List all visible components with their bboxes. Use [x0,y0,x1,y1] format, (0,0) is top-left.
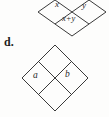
example-diamond-left-cell-label: x [55,0,59,9]
exercise-diamond-outline [22,45,88,111]
example-diamond-right-cell-label: y [82,1,86,10]
diamond-problem-figure: x y x+y d. a b [0,0,109,117]
item-label-d: d. [4,36,14,48]
example-diamond-bottom-cell-label: x+y [62,14,75,23]
exercise-diamond-right-cell-label: b [65,70,70,80]
example-diamond-graphic [0,0,109,117]
exercise-diamond-left-cell-label: a [33,71,38,81]
